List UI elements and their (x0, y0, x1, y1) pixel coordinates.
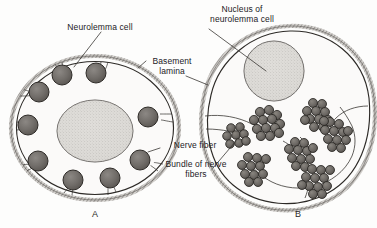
panel-label-a: A (92, 209, 98, 219)
neurolemma-cell-diagram (0, 0, 377, 228)
label-nucleus-of-neurolemma-cell-line2: neurolemma cell (192, 14, 292, 24)
panel-label-b: B (295, 209, 301, 219)
leader-basement-lamina-right (186, 76, 208, 85)
label-nucleus-of-neurolemma-cell-line1: Nucleus of (192, 4, 292, 14)
label-basement-lamina-line2: lamina (143, 66, 201, 76)
label-neurolemma-cell: Neurolemma cell (52, 22, 148, 32)
cell-b-group (201, 26, 375, 210)
label-bundle-of-nerve-fibers-line1: Bundle of nerve (148, 159, 244, 169)
label-basement-lamina-line1: Basement (143, 56, 201, 66)
label-nerve-fiber: Nerve fiber (162, 140, 228, 150)
label-bundle-of-nerve-fibers-line2: fibers (148, 169, 244, 179)
